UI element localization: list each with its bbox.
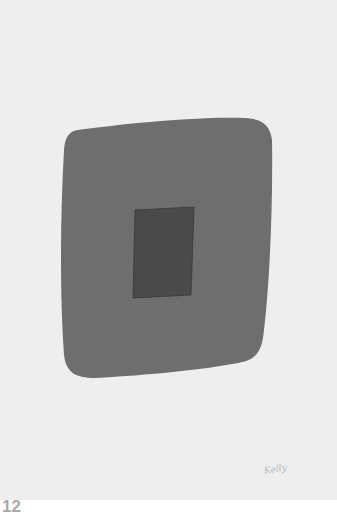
artwork: [0, 0, 337, 500]
plate-number: 12: [2, 498, 21, 516]
inner-dark-rectangle: [133, 207, 194, 298]
